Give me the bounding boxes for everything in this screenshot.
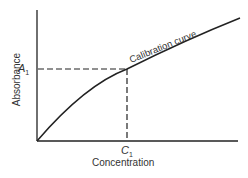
x-axis-label: Concentration [92, 157, 154, 168]
calibration-curve [37, 18, 240, 141]
curve-label: Calibration curve [128, 28, 198, 65]
y-axis-label: Absorbance [11, 50, 22, 110]
a1-label: A1 [18, 62, 29, 76]
c1-label: C1 [121, 144, 133, 158]
